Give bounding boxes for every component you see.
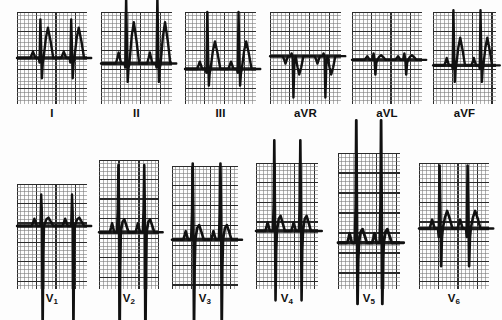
ecg-grid-avl [352,12,422,104]
ecg-grid-avr [270,12,341,104]
ecg-grid-v5 [338,153,400,289]
lead-panel-v6 [419,163,489,289]
lead-panel-avr [270,12,341,104]
lead-panel-iii [185,12,256,104]
lead-panel-v3 [172,166,238,289]
lead-panel-v1 [17,184,87,289]
lead-panel-v5 [338,153,400,289]
ecg-grid-iii [185,12,256,104]
lead-panel-ii [101,12,172,104]
ecg-grid-v2 [99,160,159,289]
ecg-grid-ii [101,12,172,104]
ecg-grid-v1 [17,184,87,289]
ecg-grid-v6 [419,163,489,289]
ecg-grid-v3 [172,166,238,289]
lead-panel-i [17,12,87,104]
ecg-grid-v4 [256,163,318,289]
ecg-grid-avf [433,12,496,104]
ecg-grid-i [17,12,87,104]
lead-panel-avf [433,12,496,104]
lead-panel-v4 [256,163,318,289]
lead-panel-v2 [99,160,159,289]
lead-label-v6: V6 [399,292,502,304]
ecg-sheet: IIIIIIaVRaVLaVFV1V2V3V4V5V6 [0,0,502,320]
lead-label-avf: aVF [413,107,502,119]
lead-panel-avl [352,12,422,104]
